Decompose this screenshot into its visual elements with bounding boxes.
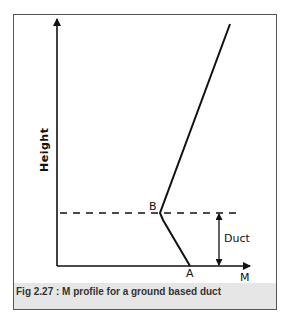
m-profile-diagram: Height B A M Duct [0, 0, 290, 326]
point-b-label: B [149, 200, 157, 213]
point-a-label: A [186, 267, 194, 280]
duct-label: Duct [224, 232, 250, 245]
x-axis-label: M [240, 271, 250, 284]
y-axis-label: Height [38, 128, 51, 172]
